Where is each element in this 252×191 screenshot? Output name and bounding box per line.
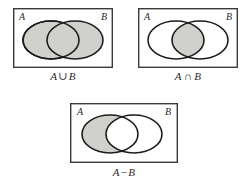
venn-union-svg: A B <box>13 8 113 68</box>
caption-union: A∪B <box>13 70 113 83</box>
caption-intersection-left: A <box>175 70 182 82</box>
set-b-label: B <box>226 11 232 22</box>
set-a-label: A <box>76 106 84 117</box>
venn-diagram-intersection: A B <box>138 8 238 68</box>
union-operator-symbol: ∪ <box>57 70 69 82</box>
set-b-ellipse <box>47 21 103 59</box>
caption-intersection-right: B <box>194 70 201 82</box>
set-a-label: A <box>143 11 151 22</box>
caption-intersection: A∩B <box>138 70 238 82</box>
caption-difference: A−B <box>70 166 178 178</box>
venn-diagram-union: A B <box>13 8 113 68</box>
set-b-label: B <box>101 11 107 22</box>
set-a-label: A <box>18 11 26 22</box>
caption-difference-right: B <box>128 166 135 178</box>
venn-intersection-svg: A B <box>138 8 238 68</box>
intersection-operator-symbol: ∩ <box>182 70 194 82</box>
caption-union-right: B <box>69 70 76 82</box>
venn-difference-svg: A B <box>70 103 178 163</box>
venn-diagram-difference: A B <box>70 103 178 163</box>
caption-difference-left: A <box>113 166 120 178</box>
venn-diagram-figure: A B A∪B A B A∩B <box>0 0 252 191</box>
set-b-label: B <box>165 106 171 117</box>
difference-operator-symbol: − <box>120 166 129 178</box>
